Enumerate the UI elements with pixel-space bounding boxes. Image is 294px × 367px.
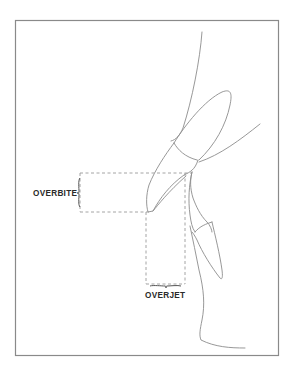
- upper-palate-outline: [199, 124, 260, 162]
- upper-incisor-lingual-outline: [153, 176, 186, 211]
- upper-incisor-cej-line: [174, 143, 197, 160]
- upper-incisor-crown: [147, 143, 198, 212]
- upper-incisor-root: [174, 91, 231, 160]
- diagram-frame: [16, 21, 279, 356]
- overjet-brace: [150, 286, 181, 288]
- lower-incisor-lingual-outline: [189, 172, 195, 232]
- dental-occlusion-diagram: OVERBITE OVERJET: [0, 0, 294, 367]
- overbite-label: OVERBITE: [33, 189, 77, 198]
- overjet-label: OVERJET: [145, 291, 185, 300]
- lower-incisor-cej-line: [195, 222, 212, 232]
